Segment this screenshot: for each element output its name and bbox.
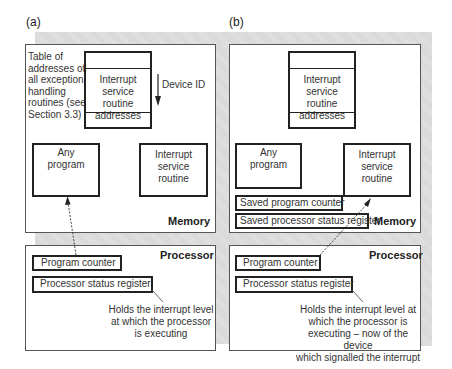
connector-overlay [0,0,452,369]
device-id-arrow-icon [155,74,161,106]
pc-to-isr-arrow-icon [320,198,371,255]
psr-leader-line-a [152,290,163,302]
pc-to-program-arrow-icon [65,196,76,255]
psr-leader-line-b [352,290,363,302]
